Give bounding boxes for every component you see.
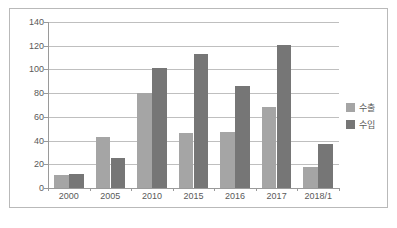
x-tick-label: 2015 <box>173 191 215 202</box>
x-axis-labels: 2000200520102015201620172018/1 <box>48 191 339 205</box>
bar-group <box>256 22 298 188</box>
y-tick-mark-20 <box>44 164 48 165</box>
gridline-0 <box>48 188 339 189</box>
bar <box>194 54 209 188</box>
bar <box>54 175 69 188</box>
chart-legend: 수출수입 <box>346 100 386 134</box>
y-tick-label: 60 <box>16 113 44 122</box>
plot-area <box>48 22 339 188</box>
bar-group <box>48 22 90 188</box>
bar-group <box>297 22 339 188</box>
bar-group <box>90 22 132 188</box>
bar <box>262 107 277 188</box>
bar-group <box>173 22 215 188</box>
bar <box>179 133 194 188</box>
y-tick-label: 100 <box>16 65 44 74</box>
legend-label: 수입 <box>359 120 375 130</box>
bar <box>303 167 318 188</box>
y-tick-mark-100 <box>44 69 48 70</box>
legend-swatch-icon <box>346 120 355 129</box>
bar <box>111 158 126 188</box>
x-tick-label: 2005 <box>90 191 132 202</box>
bar <box>69 174 84 188</box>
bar <box>220 132 235 188</box>
legend-label: 수출 <box>359 103 375 113</box>
y-tick-label: 80 <box>16 89 44 98</box>
x-tick-label: 2016 <box>214 191 256 202</box>
y-tick-mark-60 <box>44 117 48 118</box>
y-tick-mark-120 <box>44 46 48 47</box>
y-tick-label: 40 <box>16 137 44 146</box>
y-tick-label: 0 <box>16 184 44 193</box>
y-tick-label: 120 <box>16 42 44 51</box>
chart-frame: 140120100806040200 200020052010201520162… <box>9 8 388 208</box>
y-tick-mark-40 <box>44 141 48 142</box>
legend-swatch-icon <box>346 103 355 112</box>
legend-item[interactable]: 수출 <box>346 100 386 115</box>
x-tick-label: 2000 <box>48 191 90 202</box>
bar <box>318 144 333 188</box>
bar <box>152 68 167 188</box>
bar <box>96 137 111 188</box>
x-tick-label: 2018/1 <box>297 191 339 202</box>
y-tick-label: 140 <box>16 18 44 27</box>
y-tick-label: 20 <box>16 160 44 169</box>
bar <box>277 45 292 188</box>
y-tick-mark-80 <box>44 93 48 94</box>
x-tick-label: 2017 <box>256 191 298 202</box>
bar-group <box>214 22 256 188</box>
y-tick-mark-140 <box>44 22 48 23</box>
y-axis-labels: 140120100806040200 <box>12 22 44 188</box>
bar <box>137 93 152 188</box>
x-tick-label: 2010 <box>131 191 173 202</box>
x-tick-mark <box>339 188 340 191</box>
legend-item[interactable]: 수입 <box>346 117 386 132</box>
bar <box>235 86 250 188</box>
bar-group <box>131 22 173 188</box>
